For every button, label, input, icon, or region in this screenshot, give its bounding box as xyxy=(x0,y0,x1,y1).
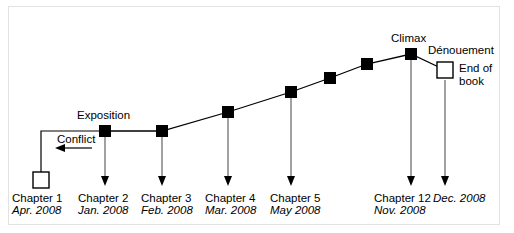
axis-tick-6-chapter: Chapter 12 xyxy=(374,192,431,204)
axis-tick-4-chapter: Chapter 4 xyxy=(205,192,256,204)
axis-tick-2-chapter: Chapter 2 xyxy=(78,192,129,204)
axis-tick-6-date: Nov. 2008 xyxy=(374,204,431,216)
axis-tick-4: Chapter 4 Mar. 2008 xyxy=(205,192,256,217)
axis-tick-1-date: Apr. 2008 xyxy=(12,204,63,216)
label-denouement: Dénouement xyxy=(428,44,494,56)
story-arc-figure: Exposition Conflict Climax Dénouement En… xyxy=(0,0,514,233)
axis-tick-3-chapter: Chapter 3 xyxy=(141,192,193,204)
axis-tick-3: Chapter 3 Feb. 2008 xyxy=(141,192,193,217)
axis-tick-1: Chapter 1 Apr. 2008 xyxy=(12,192,63,217)
axis-tick-5: Chapter 5 May 2008 xyxy=(270,192,321,217)
axis-tick-3-date: Feb. 2008 xyxy=(141,204,193,216)
axis-tick-5-chapter: Chapter 5 xyxy=(270,192,321,204)
label-climax: Climax xyxy=(391,32,426,44)
axis-tick-5-date: May 2008 xyxy=(270,204,321,216)
axis-tick-2: Chapter 2 Jan. 2008 xyxy=(78,192,129,217)
axis-tick-7: Dec. 2008 xyxy=(433,192,485,204)
axis-tick-2-date: Jan. 2008 xyxy=(78,204,129,216)
axis-tick-7-date: Dec. 2008 xyxy=(433,192,485,204)
axis-tick-4-date: Mar. 2008 xyxy=(205,204,256,216)
label-end-of-book: End of book xyxy=(459,62,492,88)
end-of-book-line-2: book xyxy=(459,75,492,88)
label-exposition: Exposition xyxy=(77,109,130,121)
axis-tick-1-chapter: Chapter 1 xyxy=(12,192,63,204)
end-of-book-line-1: End of xyxy=(459,62,492,75)
axis-tick-6: Chapter 12 Nov. 2008 xyxy=(374,192,431,217)
label-conflict: Conflict xyxy=(57,133,95,145)
